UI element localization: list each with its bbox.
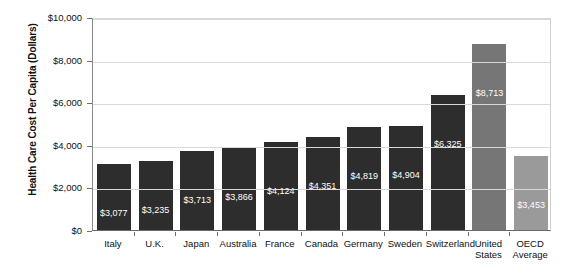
- y-axis-tick-mark: [87, 231, 92, 232]
- y-axis-tick-label: $4,000: [20, 140, 82, 151]
- bar-sweden[interactable]: $4,904: [389, 126, 423, 230]
- x-axis-label-germany: Germany: [342, 238, 384, 249]
- x-axis-label-oecd-average: OECDAverage: [509, 238, 551, 260]
- x-axis-label-line: Australia: [217, 238, 259, 249]
- bar-rect: [180, 151, 214, 230]
- bar-value-label: $8,713: [472, 88, 506, 98]
- gridline: [93, 104, 550, 105]
- y-axis-tick-label: $6,000: [20, 97, 82, 108]
- bar-rect: [514, 156, 548, 230]
- x-axis-tick-mark: [384, 232, 385, 236]
- gridline: [93, 147, 550, 148]
- bar-italy[interactable]: $3,077: [97, 164, 131, 230]
- x-axis-tick-mark: [426, 232, 427, 236]
- bar-rect: [431, 95, 465, 230]
- x-axis-tick-mark: [468, 232, 469, 236]
- x-axis-label-canada: Canada: [301, 238, 343, 249]
- x-axis-label-line: Germany: [342, 238, 384, 249]
- x-axis-tick-mark: [301, 232, 302, 236]
- bar-chart: Health Care Cost Per Capita (Dollars) $1…: [0, 0, 562, 275]
- x-axis-tick-mark: [509, 232, 510, 236]
- bar-value-label: $3,713: [180, 195, 214, 205]
- x-axis-tick-mark: [217, 232, 218, 236]
- y-axis-tick-label: $8,000: [20, 55, 82, 66]
- x-axis-tick-mark: [259, 232, 260, 236]
- bar-series: $3,077$3,235$3,713$3,866$4,124$4,351$4,8…: [93, 19, 550, 230]
- bar-oecd-average[interactable]: $3,453: [514, 156, 548, 230]
- x-axis-label-switzerland: Switzerland: [426, 238, 468, 249]
- y-axis-tick-label: $0: [20, 225, 82, 236]
- x-axis-tick-mark: [342, 232, 343, 236]
- bar-united-states[interactable]: $8,713: [472, 44, 506, 230]
- bar-france[interactable]: $4,124: [264, 142, 298, 230]
- x-axis-label-line: States: [468, 249, 510, 260]
- bar-canada[interactable]: $4,351: [306, 137, 340, 230]
- bar-rect: [97, 164, 131, 230]
- gridline: [93, 19, 550, 20]
- x-axis-label-line: U.K.: [134, 238, 176, 249]
- y-axis-tick-label: $2,000: [20, 182, 82, 193]
- gridline: [93, 189, 550, 190]
- x-axis-label-sweden: Sweden: [384, 238, 426, 249]
- x-axis-label-italy: Italy: [92, 238, 134, 249]
- gridline: [93, 62, 550, 63]
- x-axis-label-france: France: [259, 238, 301, 249]
- bar-germany[interactable]: $4,819: [347, 127, 381, 230]
- bar-rect: [139, 161, 173, 230]
- x-axis-label-u-k-: U.K.: [134, 238, 176, 249]
- x-axis-tick-mark: [134, 232, 135, 236]
- y-axis-tick-label: $10,000: [20, 12, 82, 23]
- x-axis-label-line: Italy: [92, 238, 134, 249]
- bar-value-label: $3,235: [139, 205, 173, 215]
- bar-value-label: $4,904: [389, 170, 423, 180]
- bar-japan[interactable]: $3,713: [180, 151, 214, 230]
- bar-value-label: $3,453: [514, 200, 548, 210]
- bar-rect: [472, 44, 506, 230]
- plot-area: $3,077$3,235$3,713$3,866$4,124$4,351$4,8…: [92, 18, 551, 231]
- bar-u-k-[interactable]: $3,235: [139, 161, 173, 230]
- x-axis-tick-mark: [175, 232, 176, 236]
- x-axis-label-line: Japan: [175, 238, 217, 249]
- x-axis-label-japan: Japan: [175, 238, 217, 249]
- bar-value-label: $4,124: [264, 186, 298, 196]
- x-axis-label-australia: Australia: [217, 238, 259, 249]
- x-axis-label-line: Canada: [301, 238, 343, 249]
- bar-value-label: $4,819: [347, 171, 381, 181]
- bar-value-label: $3,866: [222, 192, 256, 202]
- x-axis-label-united-states: UnitedStates: [468, 238, 510, 260]
- bar-value-label: $3,077: [97, 208, 131, 218]
- x-axis-label-line: Sweden: [384, 238, 426, 249]
- bar-switzerland[interactable]: $6,325: [431, 95, 465, 230]
- x-axis-label-line: France: [259, 238, 301, 249]
- x-axis-label-line: Switzerland: [426, 238, 468, 249]
- x-axis-label-line: OECD: [509, 238, 551, 249]
- x-axis-label-line: Average: [509, 249, 551, 260]
- x-axis-label-line: United: [468, 238, 510, 249]
